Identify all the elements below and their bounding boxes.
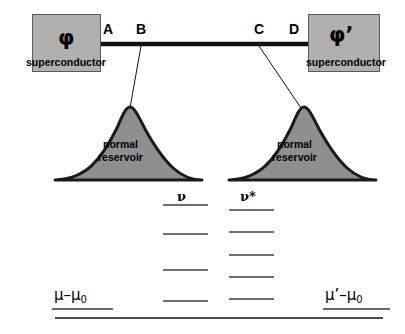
level-ladder-label-nu-star: ν* (240, 190, 256, 203)
level-ladder-nu-star (229, 210, 274, 299)
phase-symbol-left: φ (58, 28, 74, 49)
diagram-canvas: φ superconductor φ’ superconductor A B C… (0, 0, 405, 334)
phase-symbol-right: φ’ (329, 25, 353, 46)
level-ladder-nu (163, 205, 208, 301)
node-label-a: A (103, 22, 113, 36)
node-label-b: B (136, 22, 146, 36)
level-ladder-label-nu: ν (177, 190, 186, 203)
chemical-potential-text-right: μ’–μ (325, 286, 356, 304)
node-label-d: D (289, 22, 299, 36)
chemical-potential-subscript-left: 0 (81, 294, 87, 305)
normal-reservoir-label-right: normal reservoir (272, 138, 317, 164)
chemical-potential-subscript-right: 0 (356, 294, 362, 305)
chemical-potential-label-right: μ’–μ0 (325, 288, 363, 303)
superconductor-label-right: superconductor (306, 57, 386, 68)
normal-reservoir-label-left: normal reservoir (98, 138, 143, 164)
superconductor-label-left: superconductor (26, 57, 106, 68)
tether-line-b (130, 46, 141, 108)
tether-line-c (259, 46, 301, 108)
chemical-potential-text-left: μ–μ (54, 286, 81, 304)
chemical-potential-label-left: μ–μ0 (54, 288, 87, 303)
node-label-c: C (254, 22, 264, 36)
